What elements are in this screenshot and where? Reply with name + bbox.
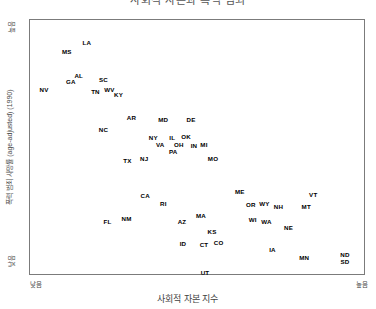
data-point-label: AZ [178, 219, 187, 225]
data-point-label: VA [156, 142, 165, 148]
data-point-label: OK [181, 134, 191, 140]
data-point-label: MS [62, 49, 72, 55]
data-point-label: VT [309, 192, 317, 198]
data-point-label: MT [302, 204, 311, 210]
data-point-label: TN [91, 89, 100, 95]
data-point-label: SD [340, 259, 349, 265]
data-point-label: WI [249, 217, 257, 223]
x-axis-label: 사회적 자본 지수 [0, 292, 376, 305]
data-point-label: OR [246, 202, 256, 208]
data-point-label: NV [40, 87, 49, 93]
plot-area: LAMSALGASCNVTNWVKYARMDDENCNYILOKVAOHINMI… [29, 19, 365, 275]
data-point-label: WY [259, 201, 269, 207]
data-point-label: MO [208, 156, 218, 162]
data-point-label: CT [200, 242, 209, 248]
data-point-label: MD [158, 117, 168, 123]
data-point-label: GA [66, 79, 76, 85]
data-point-label: ID [180, 241, 187, 247]
y-axis-tick-low-text: 낮음 [6, 255, 16, 267]
data-point-label: PA [169, 149, 178, 155]
data-point-label: CA [141, 192, 150, 198]
y-axis-tick-high: 높음 [3, 22, 18, 32]
data-point-label: NM [122, 216, 132, 222]
data-point-label: SC [99, 77, 108, 83]
data-point-label: TX [123, 158, 131, 164]
data-point-label: ME [235, 189, 245, 195]
data-point-label: IN [191, 143, 198, 149]
chart-figure: 사회적 자본과 폭력 범죄 폭력 범죄 사망률 (age-adjusted) (… [0, 0, 376, 309]
y-axis-tick-high-text: 높음 [6, 21, 16, 33]
data-point-label: AR [127, 115, 136, 121]
data-point-label: MA [196, 212, 206, 218]
y-axis-label-text: 폭력 범죄 사망률 (age-adjusted) (1990) [4, 89, 14, 204]
data-point-label: NH [274, 204, 283, 210]
data-point-label: NC [99, 127, 108, 133]
data-point-label: KY [114, 92, 123, 98]
y-axis-label: 폭력 범죄 사망률 (age-adjusted) (1990) [2, 19, 16, 275]
data-point-label: WA [261, 219, 271, 225]
x-axis-tick-high: 높음 [356, 279, 368, 289]
data-point-label: DE [186, 117, 195, 123]
data-point-label: NE [284, 225, 293, 231]
x-axis-tick-low: 낮음 [30, 279, 42, 289]
data-point-label: NJ [140, 156, 148, 162]
data-point-label: RI [160, 201, 167, 207]
data-point-label: CO [214, 240, 224, 246]
y-axis-tick-low: 낮음 [3, 256, 18, 266]
data-point-label: LA [82, 40, 91, 46]
chart-title: 사회적 자본과 폭력 범죄 [0, 0, 376, 7]
data-point-label: KS [208, 229, 217, 235]
data-point-label: MN [299, 255, 309, 261]
data-point-label: MI [200, 142, 207, 148]
data-point-label: UT [201, 270, 210, 276]
data-point-label: FL [104, 219, 112, 225]
data-point-label: IA [269, 247, 276, 253]
